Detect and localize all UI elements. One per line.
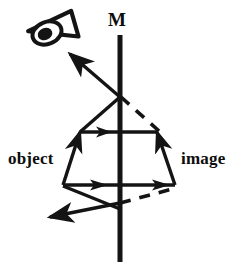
object-left-side <box>63 132 80 185</box>
ray-diagram-figure: M object image <box>0 0 241 271</box>
eye-icon <box>27 11 78 49</box>
image-label: image <box>181 150 225 167</box>
mirror-label: M <box>108 10 126 29</box>
object-label: object <box>8 150 54 167</box>
incident-ray-upper <box>80 97 120 132</box>
reflected-ray-upper <box>70 54 120 97</box>
virtual-ray-lower <box>120 188 176 203</box>
virtual-ray-upper <box>121 97 159 131</box>
image-right-side <box>157 132 175 185</box>
reflected-ray-lower <box>50 203 120 217</box>
ray-diagram-canvas <box>0 0 241 271</box>
